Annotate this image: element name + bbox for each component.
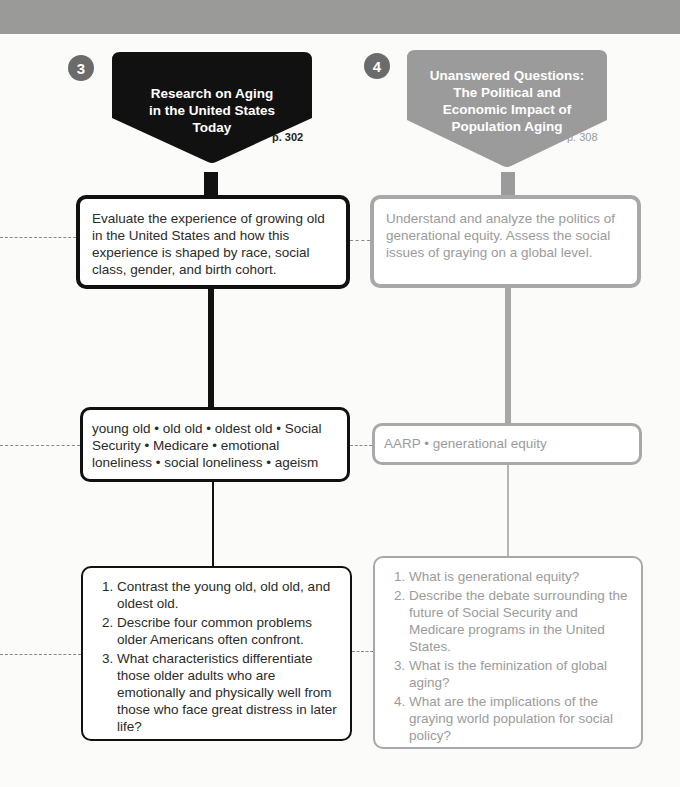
dashed-connector xyxy=(0,237,76,238)
connector xyxy=(507,465,509,557)
review-question: What is generational equity? xyxy=(409,568,629,585)
key-terms-box: young old • old old • oldest old • Socia… xyxy=(80,407,350,482)
banner-title-line: in the United States xyxy=(112,102,312,119)
section-number-badge: 3 xyxy=(68,55,94,81)
dashed-connector xyxy=(350,445,372,446)
connector xyxy=(212,482,214,568)
connector xyxy=(505,288,511,424)
review-questions-list: Contrast the young old, old old, and old… xyxy=(97,578,338,735)
key-terms-text: young old • old old • oldest old • Socia… xyxy=(92,421,322,470)
key-terms-text: AARP • generational equity xyxy=(384,436,547,451)
banner-title-line: The Political and xyxy=(407,84,607,101)
learning-objective-box: Evaluate the experience of growing old i… xyxy=(76,195,350,289)
dashed-connector xyxy=(0,445,80,446)
dashed-connector xyxy=(350,240,370,241)
header-band xyxy=(0,0,680,34)
section-number: 4 xyxy=(373,58,381,75)
banner-title-line: Economic Impact of xyxy=(407,101,607,118)
banner-title-line: Unanswered Questions: xyxy=(407,67,607,84)
review-question: What are the implications of the graying… xyxy=(409,693,629,744)
dashed-connector xyxy=(352,651,373,652)
review-question: What is the feminization of global aging… xyxy=(409,657,629,691)
review-questions-list: What is generational equity? Describe th… xyxy=(389,568,629,744)
review-question: What characteristics differentiate those… xyxy=(117,650,338,735)
connector xyxy=(501,172,515,196)
section-banner: Unanswered Questions: The Political and … xyxy=(407,50,607,168)
review-question: Contrast the young old, old old, and old… xyxy=(117,578,338,612)
learning-objective-box: Understand and analyze the politics of g… xyxy=(370,195,641,288)
connector xyxy=(204,172,218,196)
connector xyxy=(208,289,214,409)
banner-title-line: Research on Aging xyxy=(112,85,312,102)
page-reference[interactable]: p. 302 xyxy=(272,131,303,143)
learning-objective-text: Understand and analyze the politics of g… xyxy=(386,211,615,260)
section-number: 3 xyxy=(77,60,85,77)
page-reference[interactable]: p. 308 xyxy=(567,131,598,143)
key-terms-box: AARP • generational equity xyxy=(372,423,642,465)
review-question: Describe four common problems older Amer… xyxy=(117,614,338,648)
learning-objective-text: Evaluate the experience of growing old i… xyxy=(92,211,325,277)
section-banner: Research on Aging in the United States T… xyxy=(112,52,312,164)
dashed-connector xyxy=(0,654,81,655)
section-number-badge: 4 xyxy=(364,53,390,79)
review-questions-box: Contrast the young old, old old, and old… xyxy=(81,566,352,741)
review-question: Describe the debate surrounding the futu… xyxy=(409,587,629,655)
review-questions-box: What is generational equity? Describe th… xyxy=(373,556,643,749)
